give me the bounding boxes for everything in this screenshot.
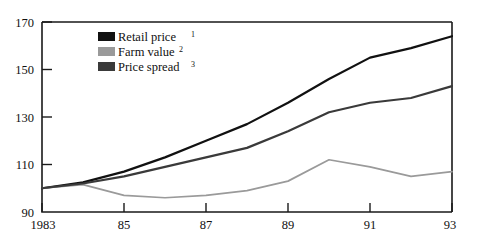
line-chart: 90110130150170 19838587899193 Retail pri… — [0, 0, 482, 239]
x-tick-label: 1983 — [31, 218, 56, 232]
legend-label: Farm value — [118, 45, 175, 59]
series-line-retail-price — [42, 36, 452, 188]
y-tick-label: 170 — [15, 16, 34, 30]
x-tick-label: 91 — [364, 218, 377, 232]
y-tick-label: 130 — [15, 111, 34, 125]
x-tick-label: 85 — [118, 218, 131, 232]
chart-container: 90110130150170 19838587899193 Retail pri… — [0, 0, 482, 239]
legend-footnote-marker: 3 — [191, 60, 195, 69]
legend-label: Retail price — [118, 30, 176, 44]
y-axis-ticks: 90110130150170 — [15, 16, 52, 220]
legend-footnote-marker: 1 — [191, 30, 195, 39]
legend-swatch — [98, 62, 115, 71]
series-line-price-spread — [42, 86, 452, 188]
x-axis-ticks: 19838587899193 — [31, 203, 457, 232]
x-tick-label: 89 — [282, 218, 295, 232]
data-series-group — [42, 36, 452, 198]
series-line-farm-value — [42, 160, 452, 198]
legend-swatch — [98, 32, 115, 41]
legend-label: Price spread — [118, 60, 180, 74]
legend-footnote-marker: 2 — [179, 45, 183, 54]
x-tick-label: 87 — [200, 218, 213, 232]
chart-legend: Retail price1Farm value2Price spread3 — [98, 30, 195, 74]
y-tick-label: 110 — [16, 158, 34, 172]
x-tick-label: 93 — [444, 218, 457, 232]
y-tick-label: 150 — [15, 63, 34, 77]
legend-swatch — [98, 47, 115, 56]
